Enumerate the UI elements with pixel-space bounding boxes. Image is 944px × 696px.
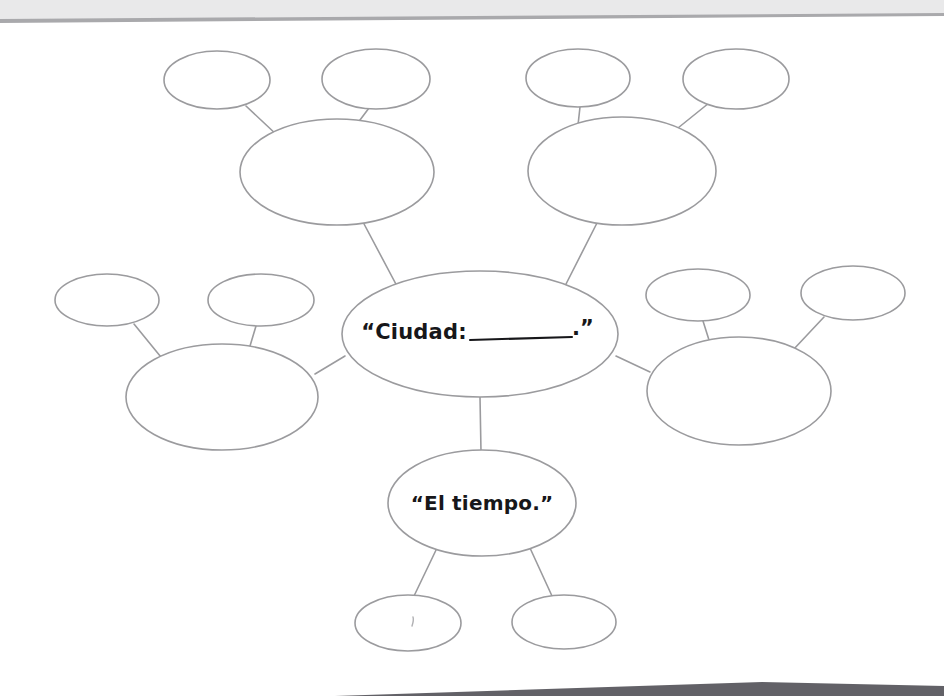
branch-left[interactable] (126, 344, 318, 450)
leaf-top-left-b[interactable] (322, 49, 430, 109)
connector-left-leaf-b (250, 326, 256, 346)
page-edge-shadow (335, 682, 944, 696)
branch-top-left[interactable] (240, 119, 434, 225)
leaf-top-left-a[interactable] (164, 51, 270, 109)
leaf-top-right-a[interactable] (526, 49, 630, 107)
page-edge-band (0, 0, 944, 23)
leaf-left-a[interactable] (55, 274, 159, 326)
connector-center-top-right (564, 221, 598, 288)
connector-center-top-left (363, 222, 398, 288)
branch-right[interactable] (647, 337, 831, 445)
connector-bottom-leaf-a (414, 548, 437, 596)
branch-bottom-label: “El tiempo.” (411, 491, 554, 515)
leaf-right-a[interactable] (646, 269, 750, 321)
leaf-bottom-b[interactable] (512, 595, 616, 649)
connector-bottom-leaf-b (530, 548, 552, 596)
leaf-top-right-b[interactable] (683, 49, 789, 109)
leaf-left-b[interactable] (208, 274, 314, 326)
worksheet-canvas: “El tiempo.” “Ciudad: .” (0, 0, 944, 696)
branch-bottom-group: “El tiempo.” (388, 450, 576, 556)
center-label-prefix: “Ciudad: (361, 320, 467, 344)
connector-center-right (616, 356, 650, 372)
branch-top-right[interactable] (528, 117, 716, 225)
connector-center-bottom (480, 397, 481, 452)
leaf-right-b[interactable] (801, 266, 905, 320)
center-label-suffix: .” (572, 316, 594, 340)
center-bubble-group: “Ciudad: .” (342, 271, 618, 397)
connector-right-leaf-b (793, 317, 824, 350)
leaf-bottom-a[interactable] (355, 595, 461, 651)
connector-right-leaf-a (703, 321, 709, 340)
connector-center-left (315, 356, 345, 374)
